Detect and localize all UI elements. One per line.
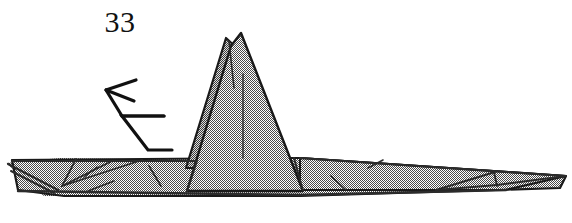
origami-illustration <box>0 0 572 223</box>
arrow-shaft <box>122 116 172 150</box>
fold-direction-arrow <box>106 80 172 150</box>
origami-step-figure: 33 <box>0 0 572 223</box>
arrow-head-icon <box>106 80 164 116</box>
